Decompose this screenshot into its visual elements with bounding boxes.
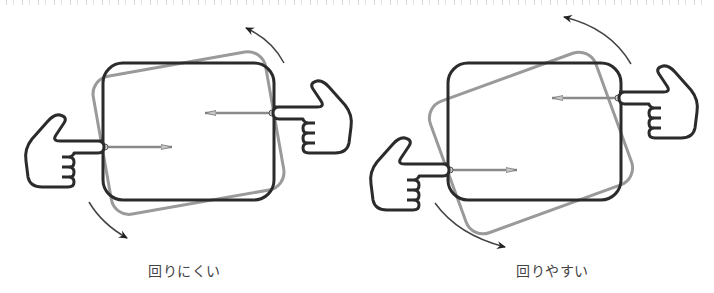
box-outline — [103, 63, 274, 200]
hand-icon-right-pushing — [619, 66, 697, 138]
caption-hard-to-rotate: 回りにくい — [148, 260, 221, 280]
figure-right — [371, 17, 698, 247]
rotation-arrow-bottom — [435, 203, 505, 247]
box-outline — [448, 63, 621, 200]
rotation-arrow-top — [246, 28, 284, 63]
figure-left — [26, 28, 352, 238]
rotated-box-outline — [424, 47, 637, 239]
hand-icon-left-pushing — [26, 115, 104, 187]
hand-icon-right-pushing — [273, 81, 351, 153]
rotated-box-outline — [90, 49, 287, 217]
caption-easy-to-rotate: 回りやすい — [516, 260, 589, 280]
hand-icon-left-pushing — [371, 138, 449, 210]
rotation-arrow-top — [564, 17, 631, 64]
rotation-arrow-bottom — [89, 202, 127, 238]
rotation-diagram — [0, 0, 714, 293]
